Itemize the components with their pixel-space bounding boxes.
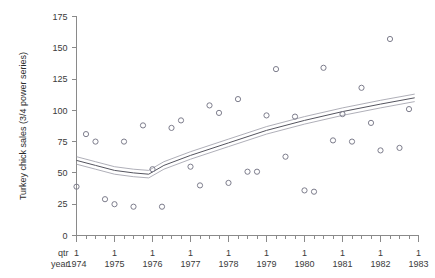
data-point bbox=[378, 148, 383, 153]
data-point bbox=[292, 114, 297, 119]
x-tick-label: 1 bbox=[378, 248, 383, 258]
y-tick-label: 175 bbox=[52, 12, 67, 22]
y-tick-label: 125 bbox=[52, 74, 67, 84]
data-point bbox=[340, 112, 345, 117]
x-tick-label: 1 bbox=[264, 248, 269, 258]
data-point bbox=[102, 197, 107, 202]
data-point bbox=[140, 123, 145, 128]
y-tick-label: 0 bbox=[62, 231, 67, 241]
data-point bbox=[178, 118, 183, 123]
x-tick-label: 1983 bbox=[408, 259, 428, 269]
data-point bbox=[169, 125, 174, 130]
x-tick-label: 1 bbox=[112, 248, 117, 258]
data-point bbox=[273, 67, 278, 72]
data-point bbox=[397, 145, 402, 150]
data-point bbox=[359, 85, 364, 90]
x-tick-label: 1975 bbox=[104, 259, 124, 269]
x-tick-label: 1982 bbox=[370, 259, 390, 269]
data-point bbox=[159, 204, 164, 209]
x-tick-label: 1977 bbox=[180, 259, 200, 269]
data-point bbox=[93, 139, 98, 144]
y-tick-label: 25 bbox=[57, 199, 67, 209]
x-tick-label: 1 bbox=[74, 248, 79, 258]
data-point bbox=[368, 120, 373, 125]
data-point bbox=[112, 202, 117, 207]
y-tick-label: 75 bbox=[57, 137, 67, 147]
data-points bbox=[74, 36, 412, 209]
x-tick-label: 1 bbox=[226, 248, 231, 258]
x-tick-label: 1 bbox=[416, 248, 421, 258]
confidence-lower-path bbox=[77, 102, 415, 178]
scatter-plot: 0255075100125150175 qtr1111111111year197… bbox=[0, 0, 435, 278]
y-axis: 0255075100125150175 bbox=[52, 12, 76, 241]
data-point bbox=[264, 113, 269, 118]
x-tick-label: 1 bbox=[340, 248, 345, 258]
data-point bbox=[311, 189, 316, 194]
data-point bbox=[349, 139, 354, 144]
x-tick-label: 1 bbox=[150, 248, 155, 258]
data-point bbox=[387, 36, 392, 41]
axis-labels: qtr1111111111year19741975197619771978197… bbox=[18, 52, 429, 269]
data-point bbox=[235, 97, 240, 102]
data-point bbox=[254, 169, 259, 174]
data-point bbox=[283, 154, 288, 159]
x-tick-label: 1980 bbox=[294, 259, 314, 269]
x-tick-label: 1979 bbox=[256, 259, 276, 269]
data-point bbox=[131, 204, 136, 209]
confidence-upper-path bbox=[77, 94, 415, 170]
y-tick-label: 100 bbox=[52, 106, 67, 116]
data-point bbox=[226, 180, 231, 185]
fitted-trend-line bbox=[77, 98, 415, 174]
data-point bbox=[207, 103, 212, 108]
data-point bbox=[302, 188, 307, 193]
x-tick-label: 1 bbox=[188, 248, 193, 258]
chart-container: 0255075100125150175 qtr1111111111year197… bbox=[0, 0, 435, 278]
y-tick-label: 150 bbox=[52, 43, 67, 53]
data-point bbox=[83, 132, 88, 137]
x-tick-label: 1 bbox=[302, 248, 307, 258]
x-axis-row-label: qtr bbox=[58, 248, 69, 258]
data-point bbox=[330, 138, 335, 143]
x-tick-label: 1974 bbox=[66, 259, 86, 269]
y-tick-label: 50 bbox=[57, 168, 67, 178]
data-point bbox=[406, 107, 411, 112]
x-tick-label: 1978 bbox=[218, 259, 238, 269]
y-axis-title: Turkey chick sales (3/4 power series) bbox=[18, 52, 28, 200]
fitted-trend-path bbox=[77, 98, 415, 174]
data-point bbox=[321, 65, 326, 70]
data-point bbox=[197, 183, 202, 188]
x-axis bbox=[77, 236, 419, 242]
x-tick-label: 1976 bbox=[142, 259, 162, 269]
data-point bbox=[188, 164, 193, 169]
data-point bbox=[245, 169, 250, 174]
x-tick-label: 1981 bbox=[332, 259, 352, 269]
confidence-band bbox=[77, 94, 415, 178]
data-point bbox=[216, 110, 221, 115]
data-point bbox=[121, 139, 126, 144]
